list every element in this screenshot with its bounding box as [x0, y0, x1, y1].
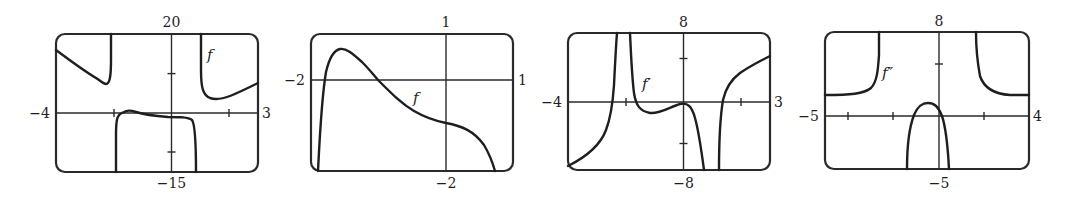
xmin-label: −2 — [284, 72, 305, 88]
panel-f-prime: 8 −8 −4 3 f′ — [541, 14, 783, 191]
curve-f-middle-branch — [116, 111, 196, 172]
ymax-label: 20 — [163, 14, 181, 30]
ymin-label: −15 — [157, 175, 187, 191]
xmax-label: 3 — [774, 94, 783, 110]
xmax-label: 1 — [518, 72, 527, 88]
plot-frame — [56, 34, 258, 172]
curve-f-prime-right-branch — [719, 56, 770, 170]
plot-frame — [825, 32, 1029, 169]
plot-frame — [311, 34, 513, 171]
curve-f-double-prime-left-branch — [825, 32, 879, 95]
xmax-label: 4 — [1033, 108, 1042, 124]
curve-f-left-branch — [56, 34, 111, 84]
ymin-label: −2 — [436, 175, 457, 191]
panel-f-double-prime: 8 −5 −5 4 f″ — [798, 13, 1042, 191]
function-label-f: f — [206, 46, 215, 64]
ymin-label: −8 — [673, 175, 694, 191]
curve-f-zoom — [318, 49, 495, 171]
curve-f-prime-left-branch — [568, 33, 617, 166]
xmin-label: −4 — [29, 105, 50, 121]
xmin-label: −5 — [798, 108, 819, 124]
function-label-f: f — [412, 89, 421, 107]
ymin-label: −5 — [929, 175, 950, 191]
chart-figure: 20 −15 −4 3 f 1 −2 −2 1 f 8 −8 −4 3 f′ — [0, 0, 1070, 200]
function-label-f-prime: f′ — [641, 75, 652, 93]
panel-f-zoom: 1 −2 −2 1 f — [284, 14, 527, 191]
xmin-label: −4 — [541, 94, 562, 110]
ymax-label: 8 — [935, 13, 944, 29]
curve-f-right-branch — [201, 34, 258, 99]
xmax-label: 3 — [262, 105, 271, 121]
panel-f-wide: 20 −15 −4 3 f — [29, 14, 271, 191]
curve-f-double-prime-middle-branch — [907, 103, 949, 169]
curve-f-double-prime-right-branch — [976, 32, 1029, 95]
function-label-f-double-prime: f″ — [881, 64, 894, 82]
ymax-label: 1 — [442, 14, 451, 30]
ymax-label: 8 — [679, 14, 688, 30]
